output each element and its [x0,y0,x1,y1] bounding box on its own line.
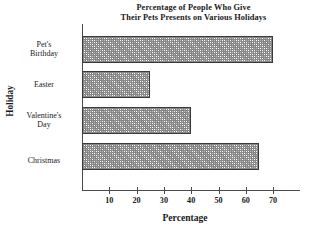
x-axis-tick-mark [109,187,110,194]
category-label-line: Pet's [8,40,80,49]
category-label-line: Easter [8,80,80,89]
category-label-line: Christmas [8,156,80,165]
bar-christmas [82,143,259,170]
x-axis-tick-mark [164,187,165,194]
x-axis-tick-label: 30 [152,196,176,205]
x-axis-tick-label: 70 [261,196,285,205]
x-axis-title: Percentage [110,212,260,223]
chart-title-line-2: Their Pets Presents on Various Holidays [86,13,301,23]
x-axis-tick-mark [246,187,247,194]
x-axis-tick-mark [273,187,274,194]
bar-pets-birthday [82,36,273,63]
plot-area [82,24,300,191]
x-axis-tick-mark [191,187,192,194]
x-axis-tick-mark [219,187,220,194]
x-axis-tick-label: 60 [234,196,258,205]
category-label-line: Valentine's [8,111,80,120]
category-label-christmas: Christmas [8,156,80,165]
bar-valentines-day [82,107,191,134]
x-axis-tick-label: 10 [97,196,121,205]
y-axis-tick-labels: Pet's Birthday Easter Valentine's Day Ch… [6,0,80,244]
chart-title-line-1: Percentage of People Who Give [86,3,301,13]
category-label-valentines-day: Valentine's Day [8,111,80,130]
x-axis-tick-mark [137,187,138,194]
bar-easter [82,71,150,98]
chart-title: Percentage of People Who Give Their Pets… [86,3,301,22]
x-axis-tick-label: 40 [179,196,203,205]
x-axis-tick-label: 20 [125,196,149,205]
category-label-easter: Easter [8,80,80,89]
category-label-line: Birthday [8,49,80,58]
category-label-pets-birthday: Pet's Birthday [8,40,80,59]
x-axis-tick-label: 50 [207,196,231,205]
category-label-line: Day [8,120,80,129]
bar-chart: Percentage of People Who Give Their Pets… [0,0,318,244]
